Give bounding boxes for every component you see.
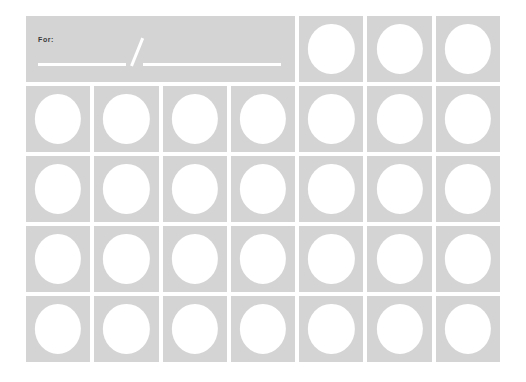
circle-cell[interactable] (231, 296, 295, 362)
circle-cell[interactable] (436, 296, 500, 362)
card-root: For: (0, 0, 526, 382)
circle-cell[interactable] (436, 86, 500, 152)
for-label: For: (38, 36, 54, 43)
circle-cell[interactable] (163, 296, 227, 362)
circle-cell[interactable] (299, 16, 363, 82)
circle-cell[interactable] (436, 226, 500, 292)
circle-cell[interactable] (26, 296, 90, 362)
circle-cell[interactable] (299, 226, 363, 292)
circle-cell[interactable] (26, 156, 90, 222)
circle-cell[interactable] (231, 86, 295, 152)
date-blank-line-1[interactable] (38, 63, 126, 66)
circle-cell[interactable] (231, 156, 295, 222)
date-blank-group (38, 44, 281, 66)
date-blank-line-2[interactable] (143, 63, 281, 66)
circle-cell[interactable] (367, 16, 431, 82)
circle-cell[interactable] (94, 296, 158, 362)
circle-grid: For: (26, 16, 500, 362)
circle-cell[interactable] (299, 156, 363, 222)
circle-cell[interactable] (94, 226, 158, 292)
circle-cell[interactable] (436, 156, 500, 222)
circle-cell[interactable] (163, 156, 227, 222)
circle-cell[interactable] (26, 226, 90, 292)
circle-cell[interactable] (367, 226, 431, 292)
circle-cell[interactable] (367, 86, 431, 152)
circle-cell[interactable] (163, 86, 227, 152)
header-banner: For: (26, 16, 295, 82)
circle-cell[interactable] (367, 296, 431, 362)
circle-cell[interactable] (163, 226, 227, 292)
circle-cell[interactable] (231, 226, 295, 292)
circle-cell[interactable] (94, 156, 158, 222)
circle-cell[interactable] (26, 86, 90, 152)
circle-cell[interactable] (367, 156, 431, 222)
circle-cell[interactable] (94, 86, 158, 152)
circle-cell[interactable] (299, 296, 363, 362)
circle-cell[interactable] (299, 86, 363, 152)
circle-cell[interactable] (436, 16, 500, 82)
